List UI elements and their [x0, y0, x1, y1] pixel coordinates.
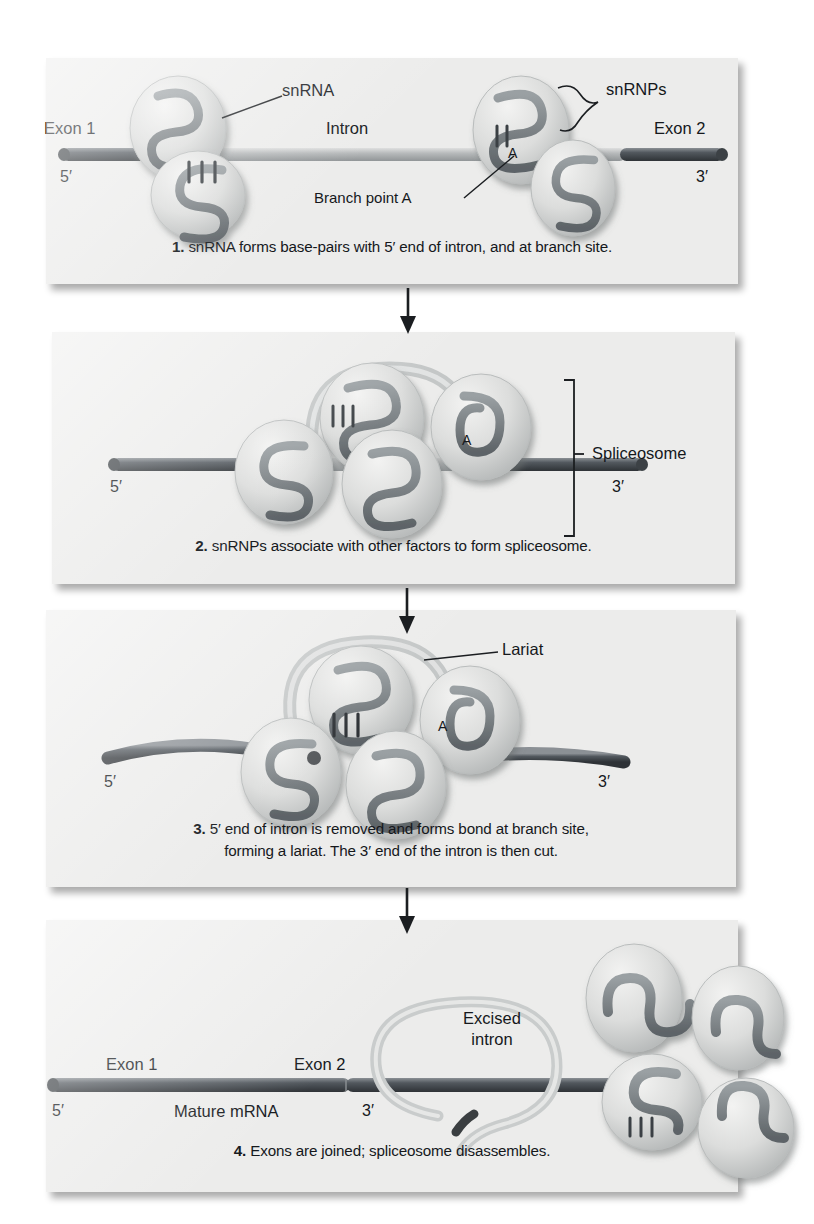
- label-3-prime-4: 3′: [362, 1102, 374, 1120]
- label-exon-2-mature: Exon 2: [294, 1055, 345, 1074]
- caption-step-2: 2. snRNPs associate with other factors t…: [52, 537, 735, 554]
- label-5-prime-2: 5′: [110, 478, 122, 496]
- caption-number-2: 2.: [195, 537, 207, 554]
- label-excised-intron-line1: Excised: [463, 1009, 521, 1027]
- snrna-leader-line: [222, 96, 282, 118]
- label-exon-1-mature: Exon 1: [106, 1055, 157, 1074]
- label-branch-letter-a-2: A: [462, 432, 471, 448]
- panel-step-2: Spliceosome A 5′ 3′ 2. snRNPs associate …: [52, 332, 735, 584]
- caption-text-2: snRNPs associate with other factors to f…: [212, 537, 592, 554]
- label-branch-point-a: Branch point A: [314, 189, 412, 206]
- flow-arrow-3-to-4: [394, 888, 420, 934]
- caption-text-4: Exons are joined; spliceosome disassembl…: [250, 1142, 550, 1159]
- snrnp-right-lower: [531, 140, 615, 236]
- caption-text-1: snRNA forms base-pairs with 5′ end of in…: [188, 238, 612, 255]
- caption-number-1: 1.: [172, 238, 184, 255]
- label-5-prime-4: 5′: [52, 1102, 64, 1120]
- free-snrnp-2: [692, 966, 784, 1070]
- free-snrnp-4: [698, 1078, 794, 1178]
- label-spliceosome: Spliceosome: [592, 444, 686, 463]
- flow-arrow-2-to-3: [394, 588, 420, 634]
- free-snrnp-1: [586, 944, 690, 1052]
- figure-canvas: Exon 1 Intron Exon 2 snRNA snRNPs Branch…: [0, 0, 814, 1224]
- snrnp-2-center-lower: [342, 430, 442, 538]
- snrnp-3-left: [241, 718, 341, 826]
- panel-step-1: Exon 1 Intron Exon 2 snRNA snRNPs Branch…: [46, 58, 738, 284]
- caption-number-3: 3.: [193, 820, 205, 837]
- label-exon-1: Exon 1: [44, 119, 95, 138]
- caption-text-3-line1: 5′ end of intron is removed and forms bo…: [210, 820, 589, 837]
- label-intron: Intron: [326, 119, 368, 138]
- free-snrnp-3: [602, 1054, 702, 1150]
- label-snrna: snRNA: [282, 81, 334, 100]
- snrnp-2-right: [431, 374, 531, 480]
- snrnp-left-lower: [151, 151, 245, 239]
- label-excised-intron-line2: intron: [471, 1030, 512, 1048]
- label-5-prime-3: 5′: [104, 773, 116, 791]
- snrnp-2-left: [235, 420, 333, 524]
- branch-bond-knot: [307, 751, 321, 765]
- caption-step-1: 1. snRNA forms base-pairs with 5′ end of…: [46, 238, 738, 255]
- caption-step-3: 3. 5′ end of intron is removed and forms…: [46, 818, 736, 862]
- label-snrnps: snRNPs: [606, 80, 667, 99]
- panel-step-4: Exon 1 Exon 2 Mature mRNA 5′ 3′ Excised …: [46, 920, 738, 1192]
- label-branch-letter-a: A: [508, 145, 517, 161]
- label-mature-mrna: Mature mRNA: [174, 1102, 279, 1121]
- caption-step-4: 4. Exons are joined; spliceosome disasse…: [46, 1142, 738, 1159]
- caption-number-4: 4.: [234, 1142, 246, 1159]
- label-3-prime: 3′: [696, 168, 708, 186]
- label-5-prime: 5′: [60, 168, 72, 186]
- caption-text-3-line2: forming a lariat. The 3′ end of the intr…: [46, 840, 736, 862]
- label-3-prime-2: 3′: [612, 478, 624, 496]
- label-excised-intron: Excised intron: [440, 1008, 544, 1049]
- label-3-prime-3: 3′: [598, 773, 610, 791]
- label-branch-letter-a-3: A: [438, 718, 447, 734]
- flow-arrow-1-to-2: [395, 288, 421, 334]
- panel-step-3: Lariat A 5′ 3′ 3. 5′ end of intron is re…: [46, 610, 736, 887]
- label-exon-2: Exon 2: [654, 119, 705, 138]
- label-lariat: Lariat: [502, 640, 543, 659]
